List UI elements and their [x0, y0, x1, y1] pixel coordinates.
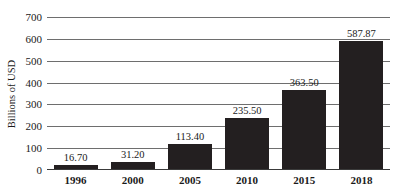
bar-value-label: 363.50 — [290, 77, 319, 88]
y-axis-title-label: Billions of USD — [6, 60, 17, 128]
bar-group: 31.202000 — [104, 17, 161, 170]
x-tick-label: 2005 — [179, 174, 201, 186]
y-tick-label: 0 — [37, 165, 43, 176]
bar — [339, 41, 383, 169]
bar — [111, 162, 155, 169]
x-tick-label: 2015 — [293, 174, 315, 186]
y-tick-label: 400 — [26, 77, 43, 88]
bar-value-label: 31.20 — [121, 149, 145, 160]
bar-value-label: 16.70 — [64, 152, 88, 163]
y-tick-label: 200 — [26, 121, 43, 132]
bar — [282, 90, 326, 169]
bar — [54, 165, 98, 169]
bar-group: 16.701996 — [47, 17, 104, 170]
bar-value-label: 235.50 — [233, 105, 262, 116]
x-tick-label: 2018 — [350, 174, 372, 186]
bar — [225, 118, 269, 169]
y-tick-label: 100 — [26, 143, 43, 154]
y-tick-label: 300 — [26, 99, 43, 110]
x-tick-label: 2000 — [122, 174, 144, 186]
bar-group: 235.502010 — [219, 17, 276, 170]
bar — [168, 144, 212, 169]
plot-area: 0100200300400500600700 16.70199631.20200… — [47, 17, 390, 170]
x-tick-label: 2010 — [236, 174, 258, 186]
bar-value-label: 587.87 — [347, 28, 376, 39]
bar-series: 16.70199631.202000113.402005235.50201036… — [47, 17, 390, 170]
x-tick-label: 1996 — [65, 174, 87, 186]
y-axis-title: Billions of USD — [1, 4, 15, 184]
bar-chart: Billions of USD 0100200300400500600700 1… — [0, 0, 396, 192]
y-tick-label: 700 — [26, 12, 43, 23]
bar-group: 587.872018 — [333, 17, 390, 170]
bar-group: 113.402005 — [161, 17, 218, 170]
y-tick-label: 600 — [26, 33, 43, 44]
bar-group: 363.502015 — [276, 17, 333, 170]
y-tick-label: 500 — [26, 55, 43, 66]
bar-value-label: 113.40 — [176, 131, 205, 142]
